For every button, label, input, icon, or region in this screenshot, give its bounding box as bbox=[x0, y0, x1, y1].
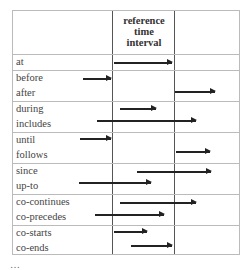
relation-label: until bbox=[16, 134, 35, 146]
arrow-icon bbox=[95, 214, 164, 216]
divider bbox=[13, 194, 239, 195]
arrow-icon bbox=[131, 245, 172, 247]
relation-label: co-continues bbox=[16, 196, 70, 208]
arrow-icon bbox=[79, 182, 151, 184]
arrow-icon bbox=[120, 202, 196, 204]
divider bbox=[13, 163, 239, 164]
relation-label: follows bbox=[16, 149, 48, 161]
relation-label: at bbox=[16, 56, 24, 68]
header-line: reference bbox=[113, 15, 175, 26]
relation-label: co-precedes bbox=[16, 211, 66, 223]
arrow-icon bbox=[97, 120, 196, 122]
figure-caption: … bbox=[10, 259, 20, 270]
divider bbox=[13, 101, 239, 102]
header-line: time bbox=[113, 26, 175, 37]
arrow-icon bbox=[80, 138, 111, 140]
relation-label: after bbox=[16, 87, 35, 99]
divider bbox=[13, 132, 239, 133]
relation-label: since bbox=[16, 165, 38, 177]
divider bbox=[13, 54, 239, 55]
arrow-icon bbox=[175, 91, 215, 93]
temporal-relations-table: reference time interval at before after … bbox=[12, 10, 240, 255]
header-line: interval bbox=[113, 37, 175, 48]
divider bbox=[13, 225, 239, 226]
relation-label: during bbox=[16, 103, 43, 115]
reference-interval-header: reference time interval bbox=[113, 15, 175, 48]
arrow-icon bbox=[137, 171, 211, 173]
relation-label: includes bbox=[16, 118, 51, 130]
divider bbox=[13, 70, 239, 71]
relation-label: before bbox=[16, 72, 43, 84]
relation-label: co-ends bbox=[16, 242, 49, 254]
arrow-icon bbox=[176, 151, 210, 153]
arrow-icon bbox=[83, 78, 111, 80]
relation-label: co-starts bbox=[16, 227, 52, 239]
arrow-icon bbox=[114, 231, 147, 233]
relation-label: up-to bbox=[16, 180, 38, 192]
arrow-icon bbox=[114, 62, 172, 64]
arrow-icon bbox=[120, 108, 156, 110]
